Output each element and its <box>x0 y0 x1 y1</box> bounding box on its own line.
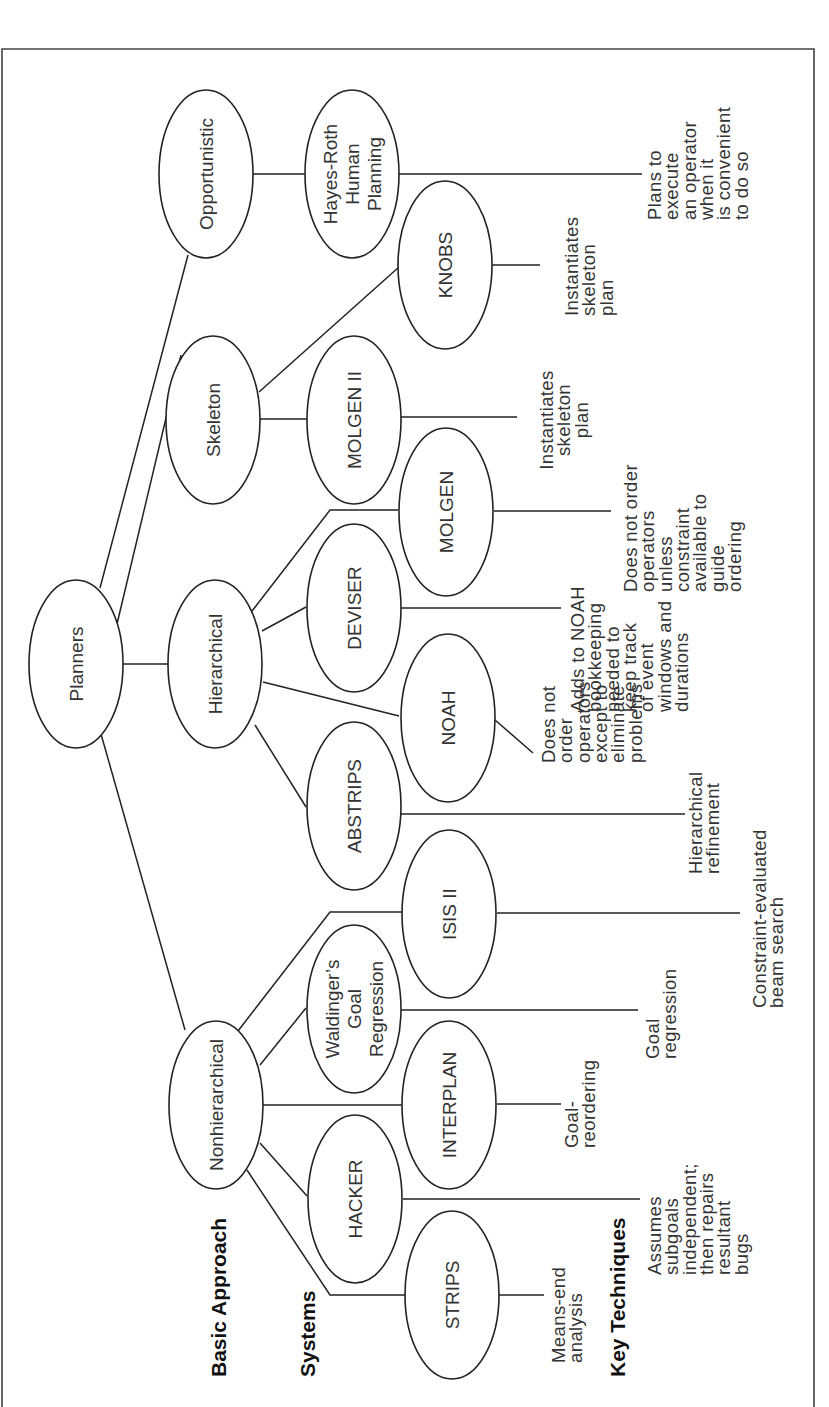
technique-line: reordering <box>578 1060 599 1148</box>
nodes: PlannersOpportunisticSkeletonHierarchica… <box>29 90 499 1379</box>
node-planners: Planners <box>29 580 123 748</box>
technique-hacker: Assumessubgoalsindependent;then repairsr… <box>644 1163 752 1275</box>
node-label: KNOBS <box>435 232 456 299</box>
technique-line: bugs <box>731 1233 752 1275</box>
node-label: NOAH <box>438 691 459 746</box>
node-label: MOLGEN II <box>344 371 365 469</box>
technique-hayes-roth: Plans toexecutean operatorwhen itis conv… <box>644 107 752 221</box>
node-label: INTERPLAN <box>439 1052 460 1159</box>
node-hierarchical: Hierarchical <box>168 580 262 748</box>
node-molgen-ii: MOLGEN II <box>307 336 401 504</box>
node-label: Human <box>342 143 363 204</box>
node-label: Waldinger’s <box>322 960 343 1059</box>
technique-line: analysis <box>565 1293 586 1363</box>
technique-molgen: Does not orderoperatorsunlessconstrainta… <box>620 464 745 592</box>
node-opportunistic: Opportunistic <box>159 90 253 258</box>
edge-nonhier-waldinger <box>260 1008 306 1065</box>
technique-waldinger: Goalregression <box>642 969 680 1059</box>
node-knobs: KNOBS <box>398 181 492 349</box>
technique-abstrips: Hierarchicalrefinement <box>685 772 723 874</box>
edge-planners-nonhierarchical <box>101 734 185 1030</box>
technique-line: regression <box>659 969 680 1059</box>
edge-hierarchical-abstrips <box>255 725 306 807</box>
planners-taxonomy-diagram: PlannersOpportunisticSkeletonHierarchica… <box>0 0 829 1407</box>
node-hayes-roth: Hayes-RothHumanPlanning <box>305 90 399 258</box>
leader-noah <box>495 720 533 753</box>
node-abstrips: ABSTRIPS <box>307 722 401 890</box>
technique-interplan: Goal-reordering <box>561 1060 599 1148</box>
node-label: ABSTRIPS <box>344 759 365 853</box>
node-noah: NOAH <box>401 634 495 802</box>
node-label: STRIPS <box>442 1261 463 1330</box>
node-label: Opportunistic <box>196 118 217 230</box>
node-nonhierarchical: Nonhierarchical <box>169 1021 263 1189</box>
technique-line: plan <box>596 279 617 316</box>
technique-notes: Plans toexecutean operatorwhen itis conv… <box>536 107 787 1363</box>
node-isis-ii: ISIS II <box>402 830 496 998</box>
technique-line: refinement <box>702 783 723 874</box>
node-deviser: DEVISER <box>307 524 401 692</box>
node-label: Nonhierarchical <box>206 1039 227 1171</box>
node-strips: STRIPS <box>405 1211 499 1379</box>
technique-line: ordering <box>724 521 745 592</box>
row-label-key-techniques: Key Techniques <box>606 1218 629 1378</box>
node-waldinger: Waldinger’sGoalRegression <box>307 925 401 1093</box>
node-interplan: INTERPLAN <box>402 1021 496 1189</box>
node-label: Skeleton <box>203 383 224 457</box>
technique-strips: Means-endanalysis <box>548 1267 586 1363</box>
row-label-basic-approach: Basic Approach <box>207 1218 230 1377</box>
node-label: Planning <box>364 137 385 211</box>
technique-molgen-ii: Instantiatesskeletonplan <box>536 370 592 469</box>
edge-hierarchical-noah <box>263 682 399 716</box>
node-label: Planners <box>66 627 87 702</box>
node-label: Hierarchical <box>205 614 226 714</box>
technique-line: durations <box>671 632 692 712</box>
node-label: Hayes-Roth <box>320 124 341 224</box>
technique-line: beam search <box>766 897 787 1008</box>
node-label: Goal <box>344 989 365 1029</box>
node-label: ISIS II <box>439 888 460 940</box>
node-label: MOLGEN <box>436 471 457 553</box>
node-molgen: MOLGEN <box>399 428 493 596</box>
technique-knobs: Instantiatesskeletonplan <box>561 217 617 316</box>
technique-line: to do so <box>731 151 752 220</box>
node-hacker: HACKER <box>308 1115 402 1283</box>
node-label: Regression <box>366 961 387 1057</box>
technique-line: plan <box>571 402 592 439</box>
technique-noah: Does notorderoperatorsexcept toeliminate… <box>538 681 646 763</box>
node-label: HACKER <box>345 1159 366 1238</box>
node-skeleton: Skeleton <box>166 336 260 504</box>
node-label: DEVISER <box>344 566 365 649</box>
row-label-systems: Systems <box>296 1291 319 1377</box>
technique-isis-ii: Constraint-evaluatedbeam search <box>749 829 787 1008</box>
edge-nonhier-hacker <box>260 1143 307 1196</box>
edge-hierarchical-deviser <box>262 607 306 631</box>
technique-line: problems <box>625 684 646 763</box>
